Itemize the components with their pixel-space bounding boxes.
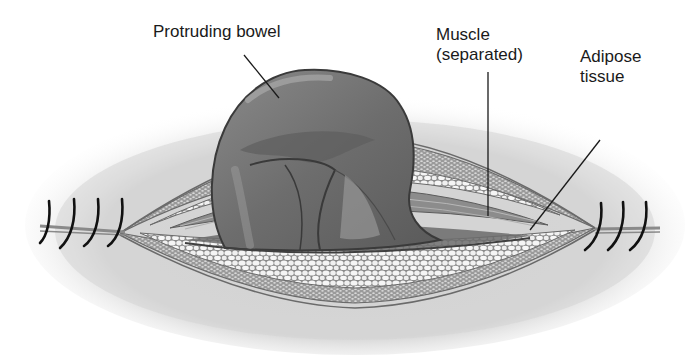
label-protruding-bowel: Protruding bowel [153,22,281,42]
label-adipose-tissue: Adipose tissue [580,47,641,87]
label-muscle-separated: Muscle (separated) [436,25,523,65]
label-text-line1: Muscle [436,25,523,45]
label-text-line2: (separated) [436,45,523,65]
label-text-line2: tissue [580,67,641,87]
label-text: Protruding bowel [153,22,281,42]
label-text-line1: Adipose [580,47,641,67]
